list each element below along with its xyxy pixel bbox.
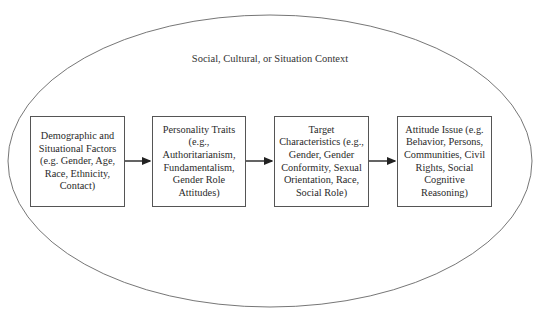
- box-target-characteristics: Target Characteristics (e.g., Gender, Ge…: [274, 116, 369, 207]
- box-attitude-issue-text: Attitude Issue (e.g. Behavior, Persons, …: [404, 124, 485, 200]
- box-demographic-factors-text: Demographic and Situational Factors (e.g…: [39, 130, 117, 193]
- box-demographic-factors: Demographic and Situational Factors (e.g…: [30, 116, 125, 207]
- box-target-characteristics-text: Target Characteristics (e.g., Gender, Ge…: [279, 124, 364, 200]
- box-attitude-issue: Attitude Issue (e.g. Behavior, Persons, …: [397, 116, 492, 207]
- box-personality-traits: Personality Traits (e.g., Authoritariani…: [152, 116, 246, 207]
- box-personality-traits-text: Personality Traits (e.g., Authoritariani…: [163, 124, 236, 200]
- context-label: Social, Cultural, or Situation Context: [0, 53, 540, 64]
